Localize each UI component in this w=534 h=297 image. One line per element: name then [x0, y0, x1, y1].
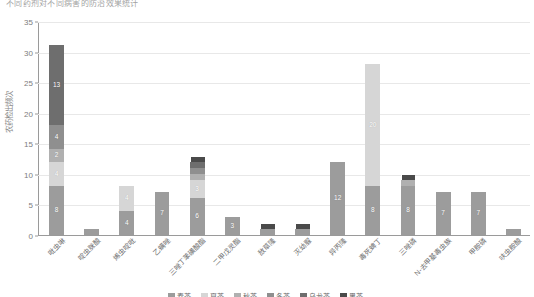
x-tick-label: 异丙隆	[328, 237, 348, 257]
bar-segment[interactable]	[84, 229, 99, 235]
bar-value-label: 4	[55, 171, 59, 178]
y-tick-label: 10	[24, 170, 33, 179]
bar-segment[interactable]: 12	[330, 162, 345, 235]
legend-label: 冬茶	[276, 291, 290, 297]
bar-column[interactable]: 820	[365, 64, 380, 235]
bar-segment[interactable]: 13	[49, 45, 64, 124]
bar-segment[interactable]: 4	[49, 162, 64, 186]
bar-segment[interactable]: 8	[49, 186, 64, 235]
x-tick-label: 毒死蜱丁	[358, 237, 383, 262]
legend-label: 秋茶	[243, 291, 257, 297]
legend-item[interactable]: 乌龙茶	[300, 291, 330, 297]
bar-segment[interactable]: 2	[49, 149, 64, 161]
bar-value-label: 12	[334, 195, 341, 202]
legend-label: 春茶	[177, 291, 191, 297]
legend-swatch	[168, 293, 175, 297]
x-tick-label: 二甲戊灵酯	[213, 237, 243, 267]
bar-segment[interactable]	[190, 174, 205, 180]
bar-value-label: 3	[195, 186, 199, 193]
legend-label: 乌龙茶	[309, 291, 330, 297]
bar-segment[interactable]: 6	[190, 198, 205, 235]
bar-segment[interactable]	[190, 162, 205, 168]
y-tick-label: 35	[24, 18, 33, 27]
legend-item[interactable]: 冬茶	[267, 291, 290, 297]
y-tick-mark	[35, 52, 38, 53]
y-tick-label: 5	[29, 201, 33, 210]
bar-segment[interactable]: 20	[365, 64, 380, 186]
bar-column[interactable]: 12	[330, 162, 345, 235]
bar-value-label: 3	[230, 223, 234, 230]
bar-segment[interactable]: 4	[119, 211, 134, 235]
x-tick-label: 烯虫啶吡	[112, 237, 137, 262]
x-tick-label: 吡虫啉	[47, 237, 67, 257]
bar-column[interactable]	[260, 224, 275, 235]
y-tick-mark	[35, 83, 38, 84]
legend-item[interactable]: 秋茶	[234, 291, 257, 297]
bar-segment[interactable]	[401, 180, 416, 186]
bar-segment-cap[interactable]	[295, 224, 310, 229]
bar-column[interactable]: 7	[155, 192, 170, 235]
x-tick-label: 敌草隆	[258, 237, 278, 257]
bar-segment[interactable]	[260, 229, 275, 235]
bar-segment[interactable]: 8	[401, 186, 416, 235]
bar-column[interactable]: 44	[119, 186, 134, 235]
bar-segment[interactable]	[295, 229, 310, 235]
bar-value-label: 8	[406, 207, 410, 214]
bar-value-label: 8	[55, 207, 59, 214]
bar-segment-cap[interactable]	[260, 224, 275, 229]
bar-segment[interactable]: 3	[190, 180, 205, 198]
x-tick-label: 乙螨唑	[152, 237, 172, 257]
bar-column[interactable]: 63	[190, 157, 205, 235]
bar-segment[interactable]: 7	[155, 192, 170, 235]
bars-layer: 84241344763312820877	[39, 22, 530, 235]
bar-value-label: 6	[195, 213, 199, 220]
y-tick-label: 0	[29, 232, 33, 241]
y-tick-mark	[35, 205, 38, 206]
bar-segment[interactable]: 8	[365, 186, 380, 235]
y-axis-title: 农药检出频次	[3, 77, 14, 147]
y-tick-mark	[35, 144, 38, 145]
y-tick-mark	[35, 236, 38, 237]
bar-column[interactable]: 842413	[49, 45, 64, 235]
bar-value-label: 7	[160, 210, 164, 217]
bar-value-label: 4	[125, 195, 129, 202]
bar-segment[interactable]: 3	[225, 217, 240, 235]
legend-swatch	[234, 293, 241, 297]
x-tick-label: 甲胺磷	[468, 237, 488, 257]
bar-column[interactable]: 7	[436, 192, 451, 235]
x-tick-label: 啶虫脒酸	[77, 237, 102, 262]
bar-segment[interactable]: 4	[49, 125, 64, 149]
legend-label: 黑茶	[349, 291, 363, 297]
bar-segment[interactable]	[506, 229, 521, 235]
x-tick-label: N-去甲基毒虫族	[413, 237, 453, 277]
bar-segment[interactable]	[190, 168, 205, 174]
bar-value-label: 7	[476, 210, 480, 217]
bar-column[interactable]: 3	[225, 217, 240, 235]
bar-column[interactable]	[506, 229, 521, 235]
chart-legend: 春茶夏茶秋茶冬茶乌龙茶黑茶	[168, 291, 363, 297]
bar-column[interactable]	[84, 229, 99, 235]
bar-column[interactable]: 7	[471, 192, 486, 235]
legend-swatch	[340, 293, 347, 297]
bar-column[interactable]	[295, 224, 310, 235]
legend-item[interactable]: 黑茶	[340, 291, 363, 297]
bar-value-label: 8	[371, 207, 375, 214]
chart-title: 不同药剂对不同病害的防治效果统计	[6, 0, 139, 8]
y-tick-label: 25	[24, 79, 33, 88]
bar-segment[interactable]: 4	[119, 186, 134, 210]
bar-value-label: 4	[125, 220, 129, 227]
bar-segment-cap[interactable]	[190, 157, 205, 162]
legend-item[interactable]: 夏茶	[201, 291, 224, 297]
x-axis-labels: 吡虫啉啶虫脒酸烯虫啶吡乙螨唑三唑丁苯磺酸酯二甲戊灵酯敌草隆灭幼脲异丙隆毒死蜱丁三…	[39, 237, 530, 285]
bar-segment[interactable]: 7	[436, 192, 451, 235]
legend-swatch	[267, 293, 274, 297]
x-axis-line	[38, 235, 530, 236]
bar-segment-cap[interactable]	[401, 175, 416, 180]
bar-column[interactable]: 8	[401, 175, 416, 235]
bar-segment[interactable]: 7	[471, 192, 486, 235]
legend-item[interactable]: 春茶	[168, 291, 191, 297]
bar-value-label: 13	[53, 82, 60, 89]
x-tick-label: 三唑磷	[398, 237, 418, 257]
x-tick-label: 呋虫胺酸	[499, 237, 524, 262]
plot-area: 05101520253035 84241344763312820877	[38, 22, 530, 236]
